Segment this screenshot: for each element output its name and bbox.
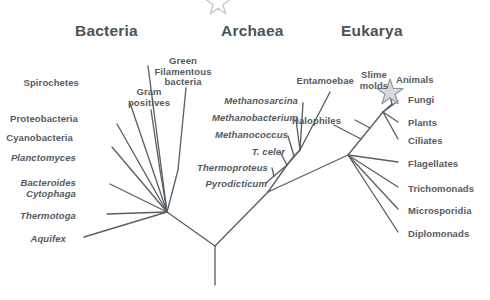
branch-root-to-bacteria — [167, 212, 215, 246]
branch-methanococcus — [288, 136, 294, 156]
branch-eukarya-stem — [268, 155, 348, 192]
taxon-label-methanosarcina: Methanosarcina — [204, 96, 298, 107]
taxon-label-diplomonads: Diplomonads — [408, 229, 478, 240]
domain-title-bacteria: Bacteria — [75, 22, 138, 40]
star-icon-clipped — [206, 0, 231, 14]
domain-title-eukarya: Eukarya — [341, 22, 403, 40]
taxon-label-spirochetes: Spirochetes — [16, 78, 79, 89]
taxon-label-trichomonads: Trichomonads — [408, 184, 480, 195]
taxon-label-fungi: Fungi — [408, 95, 448, 106]
branch-planctomyces — [112, 147, 167, 212]
taxon-label-methanobacterium: Methanobacterium — [190, 113, 298, 124]
branch-ciliates — [383, 112, 398, 139]
taxon-label-aquifex: Aquifex — [0, 234, 66, 245]
taxon-label-microsporidia: Microsporidia — [408, 206, 482, 217]
phylogenetic-tree-figure: Bacteria Archaea Eukarya Spirochetes Pro… — [0, 0, 490, 300]
taxon-label-entamoebae: Entamoebae — [288, 76, 354, 87]
taxon-label-animals: Animals — [396, 75, 440, 86]
branch-aquifex — [84, 212, 167, 237]
taxon-label-slime-molds: Slime molds — [354, 70, 394, 91]
taxon-label-planctomyces: Planctomyces — [0, 153, 76, 164]
branch-slime-molds — [355, 120, 370, 128]
branch-methanosarcina — [300, 103, 303, 150]
branch-entamoebae — [334, 125, 361, 139]
taxon-label-bacteroides-cytophaga: Bacteroides Cytophaga — [0, 178, 76, 199]
taxon-label-halophiles: Halophiles — [292, 116, 348, 127]
taxon-label-flagellates: Flagellates — [408, 159, 468, 170]
branch-animals — [383, 104, 392, 112]
taxon-label-thermotoga: Thermotoga — [0, 211, 76, 222]
taxon-label-ciliates: Ciliates — [408, 136, 454, 147]
branch-eukarya-crown-stem — [348, 112, 383, 155]
taxon-label-pyrodicticum: Pyrodicticum — [185, 179, 267, 190]
branch-thermoproteus — [272, 168, 274, 176]
branch-pyrodicticum — [266, 176, 274, 183]
taxon-label-proteobacteria: Proteobacteria — [0, 114, 78, 125]
branch-flagellates — [348, 155, 398, 162]
taxon-label-methanococcus: Methanococcus — [198, 130, 288, 141]
branch-diplomonads — [348, 155, 398, 232]
taxon-label-green-filamentous-bacteria: Green Filamentous bacteria — [148, 56, 218, 88]
branch-thermotoga — [107, 212, 167, 214]
branch-root-to-archaea-eukarya — [215, 192, 268, 246]
taxon-label-gram-positives: Gram positives — [125, 87, 173, 108]
domain-title-archaea: Archaea — [221, 22, 284, 40]
taxon-label-t-celer: T. celer — [230, 147, 285, 158]
taxon-label-plants: Plants — [408, 118, 450, 129]
taxon-label-thermoproteus: Thermoproteus — [180, 163, 268, 174]
taxon-label-cyanobacteria: Cyanobacteria — [0, 133, 73, 144]
